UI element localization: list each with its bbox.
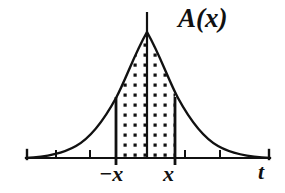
right-bound-label: x: [163, 163, 174, 185]
shaded-area-fill: [116, 20, 175, 158]
shaded-area-region: [116, 20, 175, 158]
axis-label-t: t: [258, 161, 264, 183]
figure-canvas: [0, 0, 285, 193]
gaussian-area-figure: A(x) −x x t: [0, 0, 285, 193]
left-bound-label: −x: [99, 163, 123, 185]
area-label: A(x): [178, 5, 228, 32]
